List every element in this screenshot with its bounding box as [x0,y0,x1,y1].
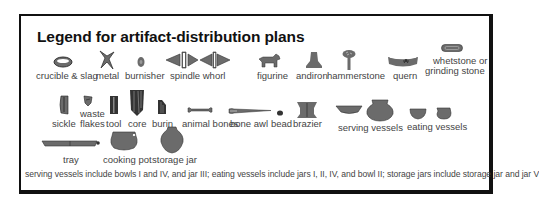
label-eating-vessels: eating vessels [407,122,467,132]
legend-box: Legend for artifact-distribution plans c… [19,14,493,194]
label-grinding-stone: grinding stone [425,66,485,76]
label-spindle-whorl: spindle whorl [170,71,225,81]
label-crucible: crucible & slag [36,71,98,81]
label-metal: metal [96,71,119,81]
label-bone-awl: bone awl [230,119,268,129]
storage-jar-icon [160,127,184,153]
label-hammerstone: hammerstone [327,71,385,81]
label-burnisher: burnisher [125,71,165,81]
label-tray: tray [63,155,79,165]
serving-vessels-icon [336,100,394,121]
core-icon [130,90,144,116]
whetstone-icon [441,44,463,52]
label-storage-jar: storage jar [152,155,197,165]
metal-icon [99,50,115,70]
label-tool: tool [106,119,121,129]
tray-icon [42,141,100,147]
label-core: core [128,119,146,129]
label-quern: quern [393,71,417,81]
label-serving-vessels: serving vessels [338,123,403,133]
label-cooking-pot: cooking pot [103,155,152,165]
label-andiron: andiron [296,71,328,81]
legend-title: Legend for artifact-distribution plans [37,28,304,46]
burnisher-icon [137,56,145,68]
waste-flakes-icon [83,96,93,106]
cooking-pot-icon [109,131,139,151]
crucible-icon [53,56,73,68]
footnote: serving vessels include bowls I and IV, … [25,169,539,179]
sickle-icon [59,96,69,114]
brazier-icon [297,102,317,118]
animal-bones-icon [188,107,212,113]
label-sickle: sickle [52,119,76,129]
tool-icon [110,96,118,114]
spindle-whorl-icon [166,52,232,68]
quern-icon [388,55,418,68]
label-brazier: brazier [293,119,322,129]
bone-awl-icon [229,108,271,114]
figurine-icon [259,54,281,68]
bead-icon [277,110,283,116]
label-figurine: figurine [257,71,288,81]
label-bead: bead [271,119,292,129]
andiron-icon [306,52,322,68]
eating-vessels-icon [410,108,454,120]
hammerstone-icon [342,50,356,70]
label-flakes: flakes [80,119,105,129]
burin-icon [158,100,166,114]
